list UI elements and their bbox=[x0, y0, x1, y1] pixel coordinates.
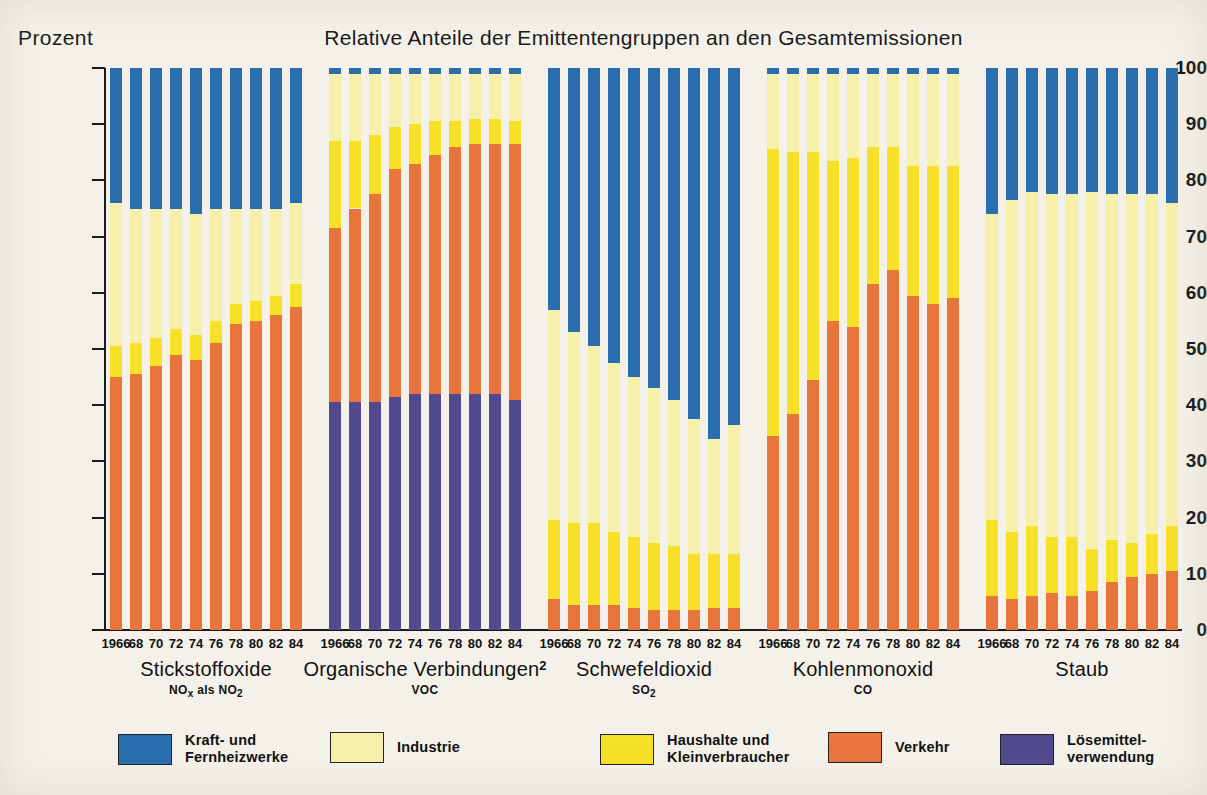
legend-item[interactable]: Lösemittel- verwendung bbox=[1000, 732, 1154, 766]
bar-segment bbox=[329, 68, 341, 74]
bar-segment bbox=[807, 74, 819, 153]
stacked-bar bbox=[767, 68, 779, 630]
stacked-bar bbox=[1006, 68, 1018, 630]
x-tick-label: 68 bbox=[786, 636, 800, 651]
bar-segment bbox=[927, 166, 939, 304]
bar-segment bbox=[628, 377, 640, 537]
bar-segment bbox=[130, 343, 142, 374]
bar-segment bbox=[827, 74, 839, 161]
bar-segment bbox=[867, 284, 879, 630]
stacked-bar bbox=[887, 68, 899, 630]
stacked-bar bbox=[349, 68, 361, 630]
bar-segment bbox=[150, 68, 162, 209]
bar-segment bbox=[369, 135, 381, 194]
bar-segment bbox=[728, 554, 740, 607]
group-name: Stickstoffoxide bbox=[140, 658, 272, 680]
bar-segment bbox=[947, 74, 959, 167]
stacked-bar bbox=[389, 68, 401, 630]
stacked-bar bbox=[509, 68, 521, 630]
bar-segment bbox=[588, 605, 600, 630]
bar-segment bbox=[668, 546, 680, 611]
bar-segment bbox=[489, 68, 501, 74]
bar-segment bbox=[986, 520, 998, 596]
bar-segment bbox=[648, 543, 660, 610]
x-tick-label: 72 bbox=[169, 636, 183, 651]
bar-segment bbox=[588, 68, 600, 346]
bar-segment bbox=[767, 74, 779, 150]
bar-segment bbox=[250, 301, 262, 321]
bar-segment bbox=[349, 68, 361, 74]
bar-segment bbox=[907, 68, 919, 74]
bar-segment bbox=[409, 164, 421, 394]
bar-segment bbox=[1166, 526, 1178, 571]
bar-segment bbox=[130, 209, 142, 344]
bar-segment bbox=[389, 169, 401, 397]
x-tick-label: 84 bbox=[508, 636, 522, 651]
bar-segment bbox=[907, 296, 919, 630]
legend-item[interactable]: Industrie bbox=[330, 732, 460, 763]
x-tick-label: 1966 bbox=[102, 636, 131, 651]
bar-segment bbox=[389, 397, 401, 630]
group-name: Staub bbox=[1055, 658, 1108, 680]
bar-segment bbox=[887, 74, 899, 147]
bar-segment bbox=[489, 74, 501, 119]
bar-segment bbox=[250, 321, 262, 630]
y-tick-mark bbox=[92, 460, 105, 462]
bar-segment bbox=[907, 166, 919, 295]
bar-segment bbox=[668, 400, 680, 546]
bar-segment bbox=[688, 419, 700, 554]
bar-segment bbox=[568, 523, 580, 604]
group-name: Schwefeldioxid bbox=[576, 658, 712, 680]
x-tick-label: 80 bbox=[1125, 636, 1139, 651]
y-tick-mark bbox=[92, 404, 105, 406]
x-tick-label: 70 bbox=[1025, 636, 1039, 651]
bar-segment bbox=[1046, 537, 1058, 593]
group-caption: Staub bbox=[1055, 658, 1108, 681]
group-caption: SchwefeldioxidSO2 bbox=[576, 658, 712, 699]
bar-segment bbox=[429, 121, 441, 155]
bar-segment bbox=[986, 596, 998, 630]
bar-segment bbox=[1066, 68, 1078, 194]
bar-segment bbox=[1166, 68, 1178, 203]
bar-segment bbox=[847, 68, 859, 74]
bar-segment bbox=[250, 209, 262, 302]
x-tick-label: 68 bbox=[348, 636, 362, 651]
bar-segment bbox=[329, 402, 341, 630]
bar-segment bbox=[230, 324, 242, 630]
legend-label: Kraft- und Fernheizwerke bbox=[185, 732, 288, 766]
bar-segment bbox=[369, 402, 381, 630]
stacked-bar bbox=[210, 68, 222, 630]
bar-segment bbox=[887, 270, 899, 630]
legend-swatch bbox=[330, 732, 384, 763]
bar-segment bbox=[688, 68, 700, 419]
bar-segment bbox=[509, 68, 521, 74]
bar-segment bbox=[210, 68, 222, 209]
bar-segment bbox=[588, 523, 600, 604]
bar-segment bbox=[389, 74, 401, 127]
bar-segment bbox=[429, 68, 441, 74]
chart-title: Relative Anteile der Emittentengruppen a… bbox=[0, 26, 1207, 50]
x-tick-label: 82 bbox=[488, 636, 502, 651]
bar-segment bbox=[628, 68, 640, 377]
legend-item[interactable]: Kraft- und Fernheizwerke bbox=[118, 732, 288, 766]
stacked-bar bbox=[1166, 68, 1178, 630]
bar-segment bbox=[170, 329, 182, 354]
x-axis-line bbox=[104, 629, 1182, 631]
bar-segment bbox=[548, 599, 560, 630]
bar-segment bbox=[1086, 68, 1098, 192]
stacked-bar bbox=[190, 68, 202, 630]
legend-item[interactable]: Haushalte und Kleinverbraucher bbox=[600, 732, 789, 766]
bar-segment bbox=[509, 121, 521, 143]
bar-segment bbox=[409, 394, 421, 630]
x-tick-label: 80 bbox=[906, 636, 920, 651]
bar-segment bbox=[588, 346, 600, 523]
stacked-bar bbox=[150, 68, 162, 630]
bar-segment bbox=[170, 209, 182, 330]
bar-segment bbox=[1086, 192, 1098, 549]
bar-segment bbox=[887, 68, 899, 74]
bar-segment bbox=[1046, 68, 1058, 194]
legend-item[interactable]: Verkehr bbox=[828, 732, 950, 763]
bar-segment bbox=[1166, 571, 1178, 630]
bar-segment bbox=[489, 394, 501, 630]
x-tick-label: 74 bbox=[189, 636, 203, 651]
